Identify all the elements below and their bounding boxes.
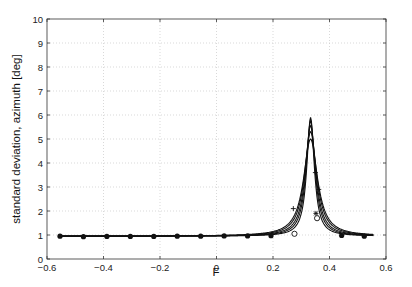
data-point [245,233,250,238]
data-curves [60,117,374,236]
y-tick-label: 5 [38,134,43,145]
y-tick-label: 4 [38,158,43,169]
y-tick-label: 10 [32,14,43,25]
y-tick-label: 0 [38,254,43,265]
x-tick-label: 0.6 [379,262,392,273]
data-point [175,234,180,239]
x-tick-label: −0.4 [94,262,113,273]
data-point [339,233,344,238]
data-point [222,233,227,238]
y-tick-label: 2 [38,206,43,217]
y-tick-label: 7 [38,86,43,97]
axis-ticks: −0.6−0.4−0.200.20.40.6012345678910 [32,14,392,274]
open-circle-marker [314,216,319,221]
data-point [198,234,203,239]
x-tick-label: 0.2 [266,262,279,273]
data-point [57,234,62,239]
data-point [151,234,156,239]
data-point [104,234,109,239]
y-tick-label: 9 [38,38,43,49]
y-tick-label: 8 [38,62,43,73]
data-point [128,234,133,239]
y-tick-label: 1 [38,230,43,241]
grid-lines [47,19,386,259]
y-tick-label: 6 [38,110,43,121]
data-point [81,234,86,239]
y-axis-label: standard deviation, azimuth [deg] [10,54,22,223]
x-tick-label: −0.2 [151,262,170,273]
y-tick-label: 3 [38,182,43,193]
star-marker [313,211,318,216]
data-point [268,233,273,238]
line-chart: −0.6−0.4−0.200.20.40.6012345678910 F sta… [0,0,412,287]
data-point [362,234,367,239]
x-axis-label: F [212,266,219,278]
plus-marker [291,206,296,211]
x-tick-label: 0.4 [323,262,336,273]
open-circle-marker [292,231,297,236]
